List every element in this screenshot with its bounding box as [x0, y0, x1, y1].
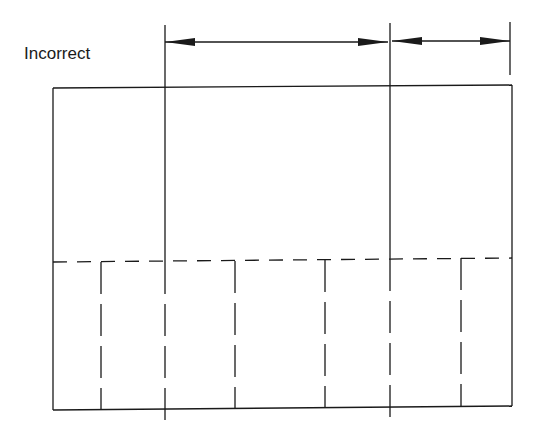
outer-rect-top	[53, 85, 512, 88]
dimension-diagram	[0, 0, 540, 430]
dashed-fold-line	[53, 258, 512, 262]
outer-rect-bottom	[53, 406, 512, 410]
